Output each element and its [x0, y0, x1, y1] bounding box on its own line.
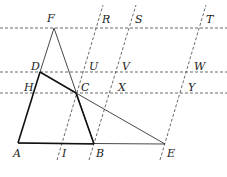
- point-label-D: D: [30, 60, 40, 73]
- point-label-U: U: [89, 60, 99, 73]
- point-label-X: X: [117, 81, 127, 94]
- point-label-W: W: [194, 60, 207, 73]
- point-label-R: R: [101, 13, 110, 26]
- point-label-H: H: [23, 81, 34, 94]
- point-labels: ABEIFDHCURVXSWYT: [12, 12, 215, 160]
- point-label-I: I: [61, 147, 67, 160]
- point-label-B: B: [95, 147, 104, 160]
- point-label-V: V: [122, 60, 131, 73]
- solid-segments: [18, 28, 165, 144]
- segment-DF: [40, 28, 54, 72]
- segment-CB: [76, 93, 94, 144]
- point-label-C: C: [81, 81, 90, 94]
- point-label-Y: Y: [188, 81, 197, 94]
- segment-CE: [76, 93, 165, 144]
- point-label-A: A: [12, 147, 21, 160]
- segment-AB: [18, 143, 94, 144]
- geometry-diagram: ABEIFDHCURVXSWYT: [0, 0, 227, 177]
- point-label-E: E: [166, 147, 175, 160]
- point-label-T: T: [206, 13, 215, 26]
- point-label-F: F: [46, 12, 55, 25]
- point-label-S: S: [135, 13, 143, 26]
